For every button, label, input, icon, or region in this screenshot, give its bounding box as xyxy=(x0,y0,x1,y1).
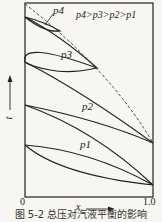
curve-p1-mid xyxy=(25,145,153,185)
phase-diagram xyxy=(0,0,162,222)
y-axis-label: t xyxy=(2,116,14,119)
curve-p1-lower xyxy=(25,145,153,185)
label-p2: p2 xyxy=(82,100,93,112)
figure-caption: 图 5-2 总压对汽液平衡的影响 xyxy=(0,206,162,221)
pressure-relation: p4>p3>p2>p1 xyxy=(76,9,136,20)
label-p4: p4 xyxy=(53,4,64,16)
label-p1: p1 xyxy=(80,138,91,150)
label-p3: p3 xyxy=(61,48,72,60)
dashed-critical-line xyxy=(25,4,153,143)
y-arrow-head-icon xyxy=(8,75,13,82)
